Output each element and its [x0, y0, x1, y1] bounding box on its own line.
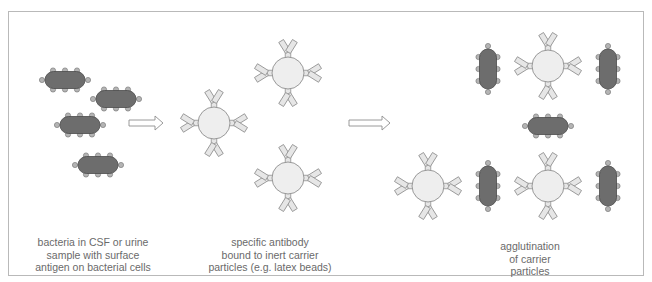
surface-antigen	[485, 43, 490, 48]
bacterial-cell	[60, 117, 100, 134]
surface-antigen	[39, 77, 44, 82]
latex-bead	[198, 107, 230, 139]
antibody-coated-bead	[254, 39, 321, 106]
caption-agglutination: agglutination of carrier particles	[480, 240, 580, 278]
bacterial-cell	[96, 91, 136, 108]
caption-line: specific antibody	[195, 236, 345, 249]
bacterial-cell	[480, 49, 497, 89]
bacterium-icon	[90, 87, 141, 111]
process-arrow-icon	[129, 116, 163, 130]
bacterium-icon	[596, 43, 620, 94]
bacterium-icon	[39, 68, 90, 92]
surface-antigen	[90, 96, 95, 101]
surface-antigen	[100, 122, 105, 127]
surface-antigen	[485, 206, 490, 211]
bacterial-cell	[600, 49, 617, 89]
caption-line: sample with surface	[18, 249, 168, 262]
caption-antibody-beads: specific antibody bound to inert carrier…	[195, 236, 345, 274]
bacterium-icon	[72, 153, 123, 177]
bacterial-cell	[45, 72, 85, 89]
latex-bead	[272, 162, 304, 194]
latex-bead	[412, 170, 444, 202]
surface-antigen	[522, 123, 527, 128]
bacterial-cell	[480, 166, 497, 206]
surface-antigen	[568, 123, 573, 128]
latex-bead	[532, 170, 564, 202]
caption-line: agglutination	[480, 240, 580, 253]
surface-antigen	[72, 162, 77, 167]
surface-antigen	[118, 162, 123, 167]
surface-antigen	[605, 43, 610, 48]
bacterium-icon	[54, 113, 105, 137]
antibody-coated-bead	[514, 152, 581, 219]
surface-antigen	[85, 77, 90, 82]
antibody-coated-bead	[180, 89, 247, 156]
bacterial-cell	[600, 166, 617, 206]
agglutination-diagram: bacteria in CSF or urine sample with sur…	[0, 0, 652, 282]
surface-antigen	[605, 89, 610, 94]
antibody-coated-bead	[394, 152, 461, 219]
surface-antigen	[136, 96, 141, 101]
bacterial-cell	[78, 157, 118, 174]
latex-bead	[532, 50, 564, 82]
caption-line: bound to inert carrier	[195, 249, 345, 262]
surface-antigen	[485, 89, 490, 94]
surface-antigen	[485, 160, 490, 165]
caption-line: antigen on bacterial cells	[18, 261, 168, 274]
latex-bead	[272, 57, 304, 89]
caption-line: particles	[480, 265, 580, 278]
surface-antigen	[54, 122, 59, 127]
caption-line: of carrier	[480, 253, 580, 266]
surface-antigen	[605, 206, 610, 211]
antibody-coated-bead	[514, 32, 581, 99]
caption-line: particles (e.g. latex beads)	[195, 261, 345, 274]
antibody-coated-bead	[254, 144, 321, 211]
caption-bacteria: bacteria in CSF or urine sample with sur…	[18, 236, 168, 274]
bacterial-cell	[528, 118, 568, 135]
caption-line: bacteria in CSF or urine	[18, 236, 168, 249]
bacterium-icon	[476, 160, 500, 211]
bacterium-icon	[522, 114, 573, 138]
surface-antigen	[605, 160, 610, 165]
process-arrow-icon	[349, 116, 390, 130]
bacterium-icon	[596, 160, 620, 211]
bacterium-icon	[476, 43, 500, 94]
